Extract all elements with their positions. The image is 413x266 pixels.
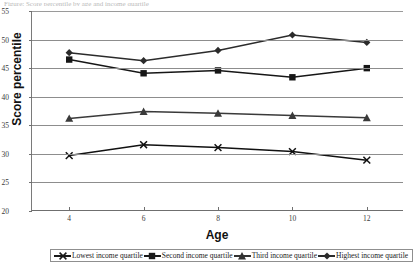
x-axis-tick-label: 12 (352, 214, 382, 223)
x-axis-tick-mark (292, 207, 293, 211)
y-axis-tick-mark (29, 97, 32, 98)
y-axis-tick-mark (29, 68, 32, 69)
x-axis-tick-mark (144, 207, 145, 211)
square-data-point (289, 74, 295, 80)
y-axis-tick-mark (29, 11, 32, 12)
y-axis-tick-mark (29, 125, 32, 126)
x-axis-tick-mark (367, 207, 368, 211)
gridline (32, 182, 403, 183)
square-marker (144, 251, 161, 260)
y-axis-tick-label: 45 (0, 64, 9, 73)
square-data-point (66, 56, 72, 62)
diamond-data-point (289, 31, 296, 38)
diamond-data-point (66, 49, 73, 56)
x-axis-tick-label: 4 (54, 214, 84, 223)
series-layer (32, 11, 404, 211)
y-axis-tick-mark (29, 211, 32, 212)
series-x (66, 141, 370, 163)
diamond-data-point (323, 252, 330, 259)
diamond-marker (318, 251, 335, 260)
gridline (32, 154, 403, 155)
chart-legend: Lowest income quartileSecond income quar… (50, 249, 413, 262)
x-axis-tick-mark (69, 207, 70, 211)
diamond-data-point (214, 47, 221, 54)
y-axis-tick-label: 20 (0, 207, 9, 216)
triangle-marker (234, 251, 251, 260)
y-axis-tick-mark (29, 182, 32, 183)
x-axis-tick-mark (218, 207, 219, 211)
series-triangle (65, 108, 371, 122)
x-axis-tick-label: 8 (203, 214, 233, 223)
series-diamond (66, 31, 371, 64)
legend-item-label: Highest income quartile (335, 251, 409, 260)
truncated-header-text: Figure: Score percentile by age and inco… (4, 0, 334, 6)
gridline (32, 125, 403, 126)
y-axis-tick-mark (29, 154, 32, 155)
gridline (32, 68, 403, 69)
gridline (32, 11, 403, 12)
triangle-data-point (238, 252, 246, 259)
legend-item[interactable]: Third income quartile (234, 251, 318, 260)
gridline (32, 97, 403, 98)
y-axis-tick-label: 50 (0, 36, 9, 45)
y-axis-title: Score percentile (10, 9, 24, 149)
legend-item-label: Lowest income quartile (71, 251, 144, 260)
legend-item[interactable]: Second income quartile (144, 251, 234, 260)
y-axis-tick-label: 55 (0, 7, 9, 16)
x-axis-tick-label: 6 (129, 214, 159, 223)
plot-area: 4681012 (31, 11, 403, 211)
y-axis-tick-label: 30 (0, 150, 9, 159)
diamond-data-point (140, 57, 147, 64)
x-axis-title: Age (31, 228, 403, 242)
legend-item-label: Third income quartile (251, 251, 318, 260)
legend-item[interactable]: Lowest income quartile (54, 251, 144, 260)
x-axis-tick-label: 10 (277, 214, 307, 223)
y-axis-tick-label: 40 (0, 93, 9, 102)
plot-inner (32, 11, 403, 211)
cross-marker (54, 251, 71, 260)
legend-item[interactable]: Highest income quartile (318, 251, 409, 260)
y-axis-tick-label: 25 (0, 178, 9, 187)
x-data-point (59, 252, 66, 259)
square-data-point (149, 252, 155, 258)
y-axis-tick-label: 35 (0, 121, 9, 130)
square-data-point (140, 70, 146, 76)
y-axis-tick-mark (29, 40, 32, 41)
gridline (32, 40, 403, 41)
legend-item-label: Second income quartile (161, 251, 234, 260)
